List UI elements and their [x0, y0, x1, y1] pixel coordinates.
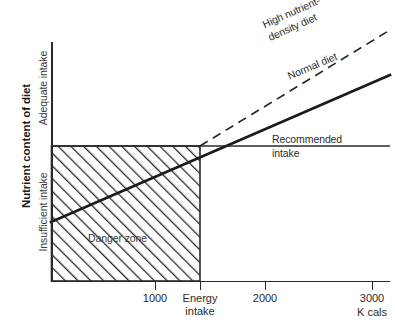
x-tick-1000: [155, 281, 156, 290]
recommended-intake-label-line2: intake: [272, 147, 342, 161]
y-axis-line: [51, 42, 53, 282]
recommended-intake-label: Recommended intake: [272, 133, 342, 160]
x-axis-title-line1: Energy: [183, 292, 218, 305]
plot-graphics: [0, 0, 395, 335]
x-tick-label-1000: 1000: [143, 292, 167, 304]
x-axis-line: [51, 281, 390, 283]
recommended-intake-label-line1: Recommended: [272, 133, 342, 147]
x-tick-label-3000: 3000: [360, 292, 384, 304]
x-tick-energy-intake: [200, 281, 201, 290]
x-tick-3000: [372, 281, 373, 290]
x-axis-title-line2: intake: [183, 305, 218, 318]
x-axis-unit-label: K cals: [357, 306, 387, 318]
x-axis-title: Energy intake: [183, 292, 218, 318]
x-tick-label-2000: 2000: [253, 292, 277, 304]
danger-zone-label: Danger zone: [88, 232, 147, 244]
x-tick-2000: [265, 281, 266, 290]
nutrient-density-chart: Nutrient content of diet Adequate intake…: [0, 0, 395, 335]
